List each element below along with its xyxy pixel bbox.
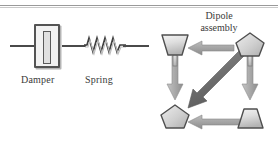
dipole-node-bottom-right (238, 109, 263, 128)
connector-line-right (123, 45, 149, 47)
spring-label: Spring (85, 74, 113, 85)
spring-coil-icon (84, 34, 126, 58)
connector-line-middle (62, 45, 86, 47)
damper-label: Damper (21, 74, 54, 85)
figure-canvas: Damper Spring Dipole assembly (0, 0, 278, 141)
dipole-assembly-diagram: Dipole assembly (150, 8, 278, 141)
arrow-top-right-to-bottom-left-diagonal (188, 50, 245, 108)
dipole-assembly-graphic (150, 8, 278, 141)
arrow-bottom-right-to-bottom-left (188, 115, 246, 129)
damper-symbol (34, 24, 60, 68)
mechanical-schematic: Damper Spring (0, 14, 140, 84)
dipole-node-top-right (236, 33, 264, 66)
dipole-node-bottom-left (161, 105, 189, 128)
arrow-top-right-to-top-left (188, 41, 234, 55)
top-divider-rule (0, 5, 278, 6)
damper-piston-icon (43, 31, 51, 64)
dipole-node-top-left (162, 35, 188, 66)
